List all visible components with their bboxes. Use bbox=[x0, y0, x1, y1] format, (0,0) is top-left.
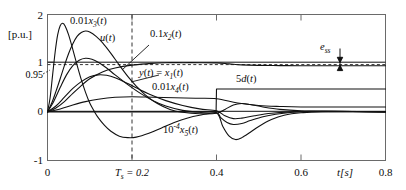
chart-svg: [p.u.] 2 1 0.95 0 -1 0 Ts = 0.2 0.4 0.6 … bbox=[0, 0, 406, 190]
y-tick-label-0p95: 0.95 bbox=[26, 69, 44, 80]
x-tick-label-ts: Ts = 0.2 bbox=[115, 167, 150, 181]
y-tick-label-1: 1 bbox=[38, 56, 44, 68]
plot-frame bbox=[48, 15, 386, 161]
y-tick-label-2: 2 bbox=[38, 9, 44, 21]
x-tick-label-0p4: 0.4 bbox=[210, 166, 224, 178]
y-axis-unit-label: [p.u.] bbox=[8, 28, 32, 40]
x-tick-label-0p8: 0.8 bbox=[379, 166, 393, 178]
y-tick-label-neg1: -1 bbox=[34, 154, 43, 166]
x-tick-label-0: 0 bbox=[45, 166, 51, 178]
x-axis-unit-label: t[s] bbox=[337, 166, 353, 178]
series-label-5d: 5d(t) bbox=[236, 73, 257, 85]
y-tick-label-0: 0 bbox=[38, 105, 44, 117]
series-label-u: u(t) bbox=[100, 32, 116, 44]
figure-root: [p.u.] 2 1 0.95 0 -1 0 Ts = 0.2 0.4 0.6 … bbox=[0, 0, 406, 190]
x-tick-label-0p6: 0.6 bbox=[294, 166, 308, 178]
